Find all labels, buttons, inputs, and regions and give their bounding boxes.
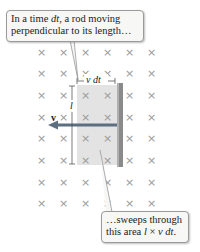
field-cross-icon: × (125, 111, 134, 124)
top-callout-line1: In a time dt, a rod moving (11, 13, 139, 25)
field-cross-icon: × (37, 111, 46, 124)
length-label: l (70, 100, 73, 111)
field-cross-icon: × (125, 67, 134, 80)
field-cross-icon: × (81, 176, 90, 189)
field-cross-icon: × (59, 89, 68, 102)
vdt-var: v dt (158, 226, 173, 237)
velocity-label: v (51, 112, 56, 123)
field-cross-icon: × (37, 89, 46, 102)
field-cross-icon: × (81, 111, 90, 124)
field-cross-icon: × (147, 89, 156, 102)
field-cross-icon: × (147, 111, 156, 124)
field-cross-icon: × (59, 67, 68, 80)
field-cross-icon: × (103, 154, 112, 167)
field-cross-icon: × (147, 132, 156, 145)
field-cross-icon: × (37, 132, 46, 145)
top-callout-line2: perpendicular to its length… (11, 25, 139, 37)
field-cross-icon: × (147, 197, 156, 210)
field-cross-icon: × (81, 46, 90, 59)
field-cross-icon: × (37, 154, 46, 167)
field-cross-icon: × (59, 111, 68, 124)
field-cross-icon: × (103, 111, 112, 124)
field-cross-icon: × (147, 46, 156, 59)
field-cross-icon: × (37, 46, 46, 59)
field-cross-icon: × (37, 197, 46, 210)
field-cross-icon: × (81, 89, 90, 102)
field-cross-icon: × (37, 67, 46, 80)
field-cross-icon: × (81, 197, 90, 210)
text: this area (106, 226, 144, 237)
field-cross-icon: × (125, 132, 134, 145)
field-cross-icon: × (125, 89, 134, 102)
field-cross-icon: × (125, 197, 134, 210)
top-callout-pointer (70, 40, 78, 80)
field-cross-icon: × (59, 154, 68, 167)
field-cross-icon: × (103, 46, 112, 59)
field-cross-icon: × (125, 46, 134, 59)
times: × (147, 226, 158, 237)
bottom-callout: …sweeps through this area l × v dt. (101, 211, 189, 243)
field-cross-icon: × (147, 67, 156, 80)
field-cross-icon: × (147, 154, 156, 167)
field-cross-icon: × (103, 89, 112, 102)
field-cross-icon: × (81, 154, 90, 167)
field-cross-icon: × (59, 176, 68, 189)
field-cross-icon: × (59, 132, 68, 145)
bottom-callout-line2: this area l × v dt. (106, 226, 184, 238)
text: In a time (11, 13, 51, 24)
field-cross-icon: × (37, 176, 46, 189)
bottom-callout-line1: …sweeps through (106, 214, 184, 226)
field-cross-icon: × (59, 46, 68, 59)
dt-var: dt (51, 13, 59, 24)
field-cross-icon: × (125, 176, 134, 189)
field-cross-icon: × (81, 132, 90, 145)
field-cross-icon: × (59, 197, 68, 210)
field-cross-icon: × (125, 154, 134, 167)
rod-highlight (117, 83, 119, 167)
field-cross-icon: × (103, 132, 112, 145)
width-label: v dt (86, 74, 101, 85)
period: . (173, 226, 176, 237)
text: , a rod moving (59, 13, 120, 24)
field-cross-icon: × (147, 176, 156, 189)
top-callout: In a time dt, a rod moving perpendicular… (6, 10, 144, 42)
